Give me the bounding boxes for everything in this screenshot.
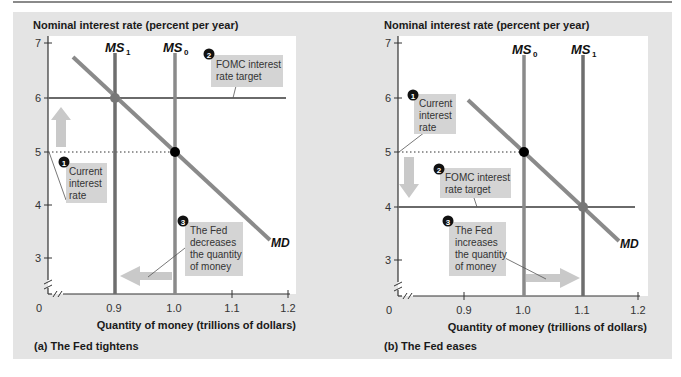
svg-text:increases: increases	[455, 237, 498, 248]
x-tick: 1.0	[515, 304, 530, 316]
panel-caption: (b) The Fed eases	[384, 340, 477, 352]
ms1-label: MS	[105, 40, 125, 55]
y-tick: 3	[35, 252, 41, 264]
svg-text:3: 3	[446, 218, 451, 227]
svg-text:2: 2	[207, 51, 212, 60]
y-tick: 5	[385, 146, 391, 158]
y-tick: 6	[35, 92, 41, 104]
svg-text:2: 2	[437, 166, 442, 175]
x-tick: 1.1	[224, 302, 239, 314]
x-axis-label: Quantity of money (trillions of dollars)	[97, 319, 297, 331]
new-equilibrium-point	[110, 93, 120, 103]
initial-equilibrium-point	[170, 147, 180, 157]
svg-text:1: 1	[411, 92, 416, 101]
svg-text:of money: of money	[455, 261, 496, 272]
svg-text:0: 0	[533, 50, 538, 59]
x-tick: 0.9	[106, 302, 121, 314]
x-tick: 1.2	[280, 302, 295, 314]
svg-text:the quantity: the quantity	[190, 249, 242, 260]
y-tick: 5	[35, 146, 41, 158]
y-tick: 4	[35, 199, 41, 211]
panel-b: Nominal interest rate (percent per year)…	[384, 19, 648, 352]
svg-text:interest: interest	[69, 178, 102, 189]
x-axis-label: Quantity of money (trillions of dollars)	[448, 321, 648, 333]
panel-caption: (a) The Fed tightens	[34, 340, 139, 352]
x-tick: 0	[36, 302, 42, 314]
new-equilibrium-point	[578, 202, 588, 212]
svg-text:1: 1	[126, 48, 131, 57]
figure-svg: Nominal interest rate (percent per year)…	[0, 0, 681, 377]
svg-text:interest: interest	[419, 110, 452, 121]
svg-text:Current: Current	[419, 98, 453, 109]
y-tick: 7	[35, 37, 41, 49]
svg-text:1: 1	[62, 159, 67, 168]
svg-text:The Fed: The Fed	[190, 225, 227, 236]
y-axis-label: Nominal interest rate (percent per year)	[33, 19, 239, 31]
ms0-label: MS	[512, 42, 532, 57]
svg-text:rate: rate	[419, 122, 437, 133]
y-tick: 7	[385, 37, 391, 49]
y-axis-label: Nominal interest rate (percent per year)	[384, 19, 590, 31]
svg-text:rate target: rate target	[445, 184, 491, 195]
x-tick: 0	[386, 304, 392, 316]
y-tick: 6	[385, 92, 391, 104]
ms0-label: MS	[163, 40, 183, 55]
svg-text:FOMC interest: FOMC interest	[216, 59, 281, 70]
ms1-label: MS	[571, 42, 591, 57]
svg-text:FOMC interest: FOMC interest	[445, 172, 510, 183]
md-label: MD	[271, 236, 290, 250]
panel-a: Nominal interest rate (percent per year)…	[33, 19, 296, 352]
svg-text:3: 3	[181, 218, 186, 227]
svg-text:Current: Current	[69, 166, 103, 177]
svg-text:the quantity: the quantity	[455, 249, 507, 260]
y-tick: 4	[385, 201, 391, 213]
svg-text:0: 0	[184, 48, 189, 57]
svg-text:1: 1	[592, 50, 597, 59]
svg-text:of money: of money	[190, 261, 231, 272]
x-tick: 1.2	[630, 304, 645, 316]
y-tick: 3	[385, 254, 391, 266]
svg-text:rate: rate	[69, 190, 87, 201]
svg-text:decreases: decreases	[190, 237, 236, 248]
svg-text:The Fed: The Fed	[455, 225, 492, 236]
x-tick: 1.1	[574, 304, 589, 316]
svg-text:rate target: rate target	[216, 71, 262, 82]
md-label: MD	[620, 237, 639, 251]
initial-equilibrium-point	[519, 147, 529, 157]
x-tick: 0.9	[456, 304, 471, 316]
x-tick: 1.0	[166, 302, 181, 314]
